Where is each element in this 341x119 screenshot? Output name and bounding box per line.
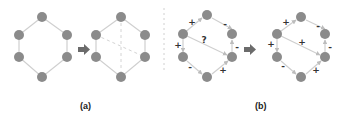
node [140,52,150,62]
edge-sign-inferred: + [298,37,306,47]
node [37,72,47,82]
graph-b-inferred: + - + - + - + [267,12,332,82]
node [296,72,306,82]
node [116,72,126,82]
edge-sign: - [223,19,227,29]
graph-a-original [14,12,72,82]
node [116,12,126,22]
node [178,29,188,39]
node [91,52,101,62]
node [202,72,212,82]
panel-a-label: (a) [80,101,91,111]
edge-sign: - [328,42,332,52]
edge-sign-unknown: ? [201,35,206,45]
edge-sign: - [316,21,320,31]
edge-sign: - [235,42,239,52]
graph-b-unknown: + - + - ? - + [174,10,239,82]
node [14,30,24,40]
edge-sign: + [282,17,290,27]
node [62,30,72,40]
node [140,30,150,40]
node [227,29,237,39]
edge-sign: + [312,65,320,75]
node [296,12,306,22]
diagram-canvas: + - + - ? - + + - + - + - + [0,0,341,119]
node [14,52,24,62]
node [202,10,212,20]
node [178,52,188,62]
edge-sign: + [219,65,227,75]
arrow-right-icon [78,44,90,55]
edge-sign: - [188,62,192,72]
edge-sign: + [174,40,182,50]
node [272,29,282,39]
node [91,30,101,40]
node [320,52,330,62]
node [37,12,47,22]
node [62,52,72,62]
node [227,52,237,62]
arrow-right-icon [244,44,256,55]
edge-sign: + [188,17,196,27]
edge-sign: + [267,39,275,49]
edge-sign: - [281,61,285,71]
node [320,29,330,39]
graph-a-completed [91,12,150,82]
panel-b-label: (b) [255,101,267,111]
